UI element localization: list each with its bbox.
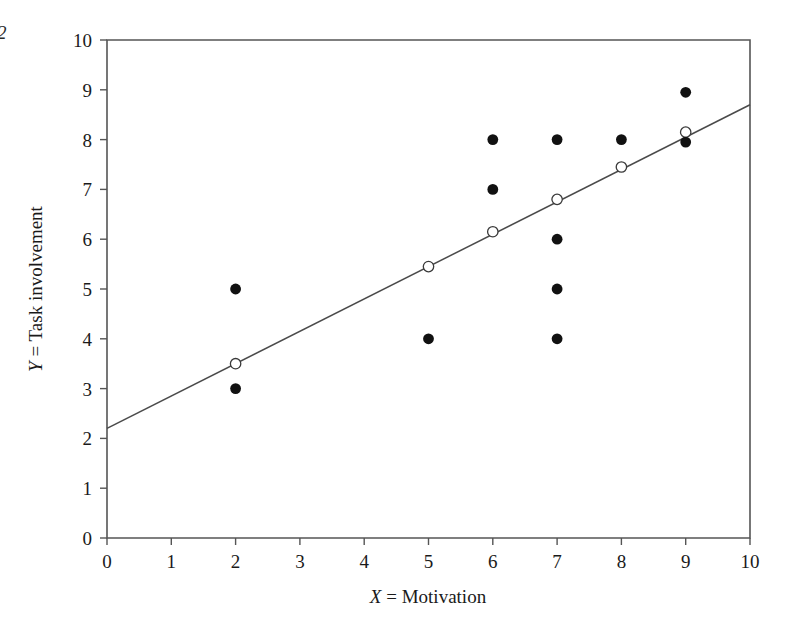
predicted-score-point: [488, 227, 498, 237]
x-tick-label: 2: [231, 551, 241, 572]
predicted-score-point: [681, 127, 691, 137]
svg-text:Y = Task involvement: Y = Task involvement: [25, 205, 46, 372]
y-tick-label: 1: [83, 478, 93, 499]
x-tick-label: 9: [681, 551, 691, 572]
observed-score-point: [487, 184, 498, 195]
x-axis-ticks: [107, 538, 750, 545]
y-tick-label: 9: [83, 80, 93, 101]
predicted-score-point: [616, 162, 626, 172]
y-tick-label: 10: [73, 30, 92, 51]
y-axis-tick-labels: 012345678910: [73, 30, 93, 549]
observed-score-point: [552, 234, 563, 245]
y-tick-label: 5: [83, 279, 93, 300]
observed-score-point: [552, 284, 563, 295]
observed-score-point: [552, 333, 563, 344]
observed-score-point: [230, 383, 241, 394]
axis-frame: [107, 40, 750, 538]
y-tick-label: 0: [83, 528, 93, 549]
observed-score-point: [230, 284, 241, 295]
x-axis-title: X = Motivation: [369, 586, 487, 607]
observed-score-point: [487, 134, 498, 145]
x-axis-variable-text: = Motivation: [381, 586, 486, 607]
observed-score-markers: [230, 87, 691, 394]
x-tick-label: 1: [167, 551, 177, 572]
observed-score-point: [680, 137, 691, 148]
y-axis-title: Y = Task involvement: [25, 205, 46, 372]
axes: [107, 40, 750, 538]
y-tick-label: 2: [83, 428, 93, 449]
predicted-score-point: [230, 359, 240, 369]
x-tick-label: 5: [424, 551, 434, 572]
y-axis-ticks: [100, 40, 107, 538]
x-tick-label: 8: [617, 551, 627, 572]
predicted-score-markers: [230, 127, 691, 369]
observed-score-point: [552, 134, 563, 145]
x-tick-label: 4: [359, 551, 369, 572]
x-axis-tick-labels: 012345678910: [102, 551, 759, 572]
x-tick-label: 7: [552, 551, 562, 572]
y-axis-variable-text: = Task involvement: [25, 205, 46, 361]
svg-text:X = Motivation: X = Motivation: [369, 586, 487, 607]
predicted-score-point: [423, 261, 433, 271]
chart-canvas: 012345678910 012345678910 X = Motivation…: [0, 0, 794, 625]
observed-score-point: [423, 333, 434, 344]
scatter-plot-figure: 012345678910 012345678910 X = Motivation…: [0, 0, 794, 625]
x-tick-label: 0: [102, 551, 112, 572]
x-tick-label: 10: [741, 551, 760, 572]
y-tick-label: 8: [83, 130, 93, 151]
y-tick-label: 4: [83, 329, 93, 350]
y-tick-label: 3: [83, 379, 93, 400]
y-tick-label: 6: [83, 229, 93, 250]
observed-score-point: [616, 134, 627, 145]
observed-score-point: [680, 87, 691, 98]
y-tick-label: 7: [83, 179, 93, 200]
predicted-score-point: [552, 194, 562, 204]
x-tick-label: 6: [488, 551, 498, 572]
x-tick-label: 3: [295, 551, 305, 572]
